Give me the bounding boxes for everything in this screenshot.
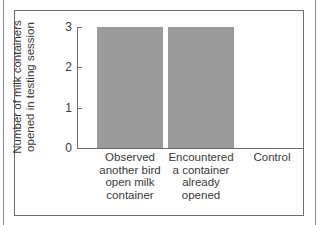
- y-axis-label-line-1: Number of milk containers: [11, 7, 24, 167]
- y-axis: [77, 27, 78, 148]
- y-axis-label: Number of milk containers opened in test…: [11, 7, 41, 167]
- y-tick-2: [77, 67, 82, 68]
- x-category-label-line: opened: [161, 189, 241, 202]
- y-axis-label-line-2: opened in testing session: [24, 7, 37, 167]
- x-category-label-line: container: [90, 189, 170, 202]
- x-category-label-observed: Observed another bird open milk containe…: [90, 151, 170, 201]
- y-tick-1: [77, 108, 82, 109]
- page-border-left: [3, 0, 4, 225]
- x-category-label-line: another bird: [90, 164, 170, 177]
- x-axis: [77, 148, 304, 149]
- x-category-label-line: open milk: [90, 176, 170, 189]
- x-category-label-control: Control: [232, 151, 312, 164]
- y-tick-3: [77, 27, 82, 28]
- x-category-label-line: already: [161, 176, 241, 189]
- bar-observed-another-bird: [97, 27, 163, 148]
- x-category-label-line: Observed: [90, 151, 170, 164]
- y-tick-label-1: 1: [62, 102, 72, 114]
- x-category-label-line: a container: [161, 164, 241, 177]
- x-category-label-encountered: Encountered a container already opened: [161, 151, 241, 201]
- x-category-label-line: Control: [232, 151, 312, 164]
- y-tick-label-3: 3: [62, 21, 72, 33]
- y-tick-0: [77, 148, 82, 149]
- x-category-label-line: Encountered: [161, 151, 241, 164]
- y-tick-label-2: 2: [62, 61, 72, 73]
- bar-encountered-opened-container: [168, 27, 234, 148]
- page-border-right: [315, 0, 316, 225]
- y-tick-label-0: 0: [62, 142, 72, 154]
